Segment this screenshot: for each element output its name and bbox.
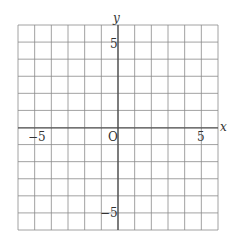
y-tick-label-pos5: 5 <box>110 37 118 51</box>
origin-label: O <box>108 130 118 144</box>
y-axis-label: y <box>112 11 120 25</box>
x-tick-label-neg5: −5 <box>28 130 46 144</box>
x-tick-label-pos5: 5 <box>197 130 205 144</box>
coordinate-plane: y x O −5 5 5 −5 <box>0 0 241 243</box>
x-axis-label: x <box>220 120 227 134</box>
y-tick-label-neg5: −5 <box>100 206 118 220</box>
